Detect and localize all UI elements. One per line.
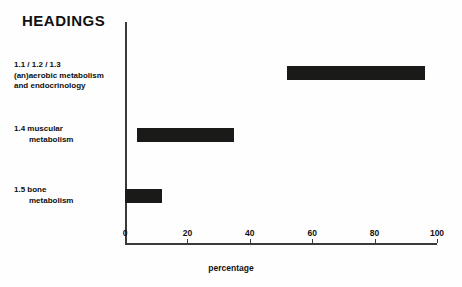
category-label-line: 1.5 bone xyxy=(14,185,118,196)
x-axis-title: percentage xyxy=(208,263,253,273)
x-axis-tick xyxy=(437,239,438,243)
category-label-line: 1.1 / 1.2 / 1.3 xyxy=(14,60,118,71)
x-axis-tick-label: 80 xyxy=(370,228,379,238)
x-axis-tick xyxy=(375,239,376,243)
x-axis-line xyxy=(125,243,437,245)
category-label-bone-metabolism: 1.5 bonemetabolism xyxy=(14,185,118,206)
x-axis-tick xyxy=(250,239,251,243)
x-axis-tick xyxy=(312,239,313,243)
category-label-muscular-metabolism: 1.4 muscularmetabolism xyxy=(14,124,118,145)
x-axis-tick-label: 20 xyxy=(183,228,192,238)
x-axis-tick-label: 60 xyxy=(307,228,316,238)
page-title: HEADINGS xyxy=(22,12,105,29)
category-label-line: metabolism xyxy=(14,196,118,207)
plot-area xyxy=(125,22,437,245)
x-axis-tick xyxy=(187,239,188,243)
y-axis-line xyxy=(125,22,127,245)
category-label-line: metabolism xyxy=(14,135,118,146)
x-axis-tick-label: 100 xyxy=(430,228,444,238)
category-label-line: (an)aerobic metabolism xyxy=(14,71,118,82)
bar xyxy=(287,66,424,80)
category-label-line: 1.4 muscular xyxy=(14,124,118,135)
x-axis-tick xyxy=(125,239,126,243)
category-label-line: and endocrinology xyxy=(14,81,118,92)
category-label-anaerobic-metabolism: 1.1 / 1.2 / 1.3(an)aerobic metabolismand… xyxy=(14,60,118,92)
x-axis-tick-label: 0 xyxy=(123,228,128,238)
bar xyxy=(125,189,162,203)
bar xyxy=(137,128,234,142)
x-axis-tick-label: 40 xyxy=(245,228,254,238)
chart-canvas: HEADINGS 1.1 / 1.2 / 1.3(an)aerobic meta… xyxy=(0,0,462,287)
